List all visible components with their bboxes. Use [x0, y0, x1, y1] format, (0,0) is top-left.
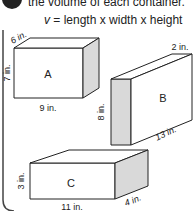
box-c-length: 11 in. — [61, 202, 82, 211]
box-a: A 9 in. 7 in. 6 in. — [2, 29, 99, 113]
boxes-diagram: A 9 in. 7 in. 6 in. B 2 in. 8 in. 13 in.… — [0, 0, 193, 211]
box-c-height: 3 in. — [16, 172, 26, 189]
box-a-length: 9 in. — [39, 103, 56, 113]
box-c: C 11 in. 3 in. 4 in. — [16, 150, 148, 211]
box-a-height: 7 in. — [2, 64, 12, 81]
box-b-height: 8 in. — [96, 103, 106, 120]
box-a-label: A — [44, 68, 52, 80]
box-b-width: 2 in. — [171, 42, 188, 52]
box-c-label: C — [67, 177, 75, 189]
box-b-label: B — [159, 92, 166, 104]
box-b: B 2 in. 8 in. 13 in. — [96, 42, 192, 145]
